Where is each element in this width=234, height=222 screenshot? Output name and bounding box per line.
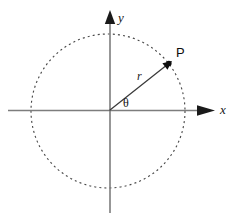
y-axis-arrow-icon [105, 10, 115, 24]
polar-coordinate-figure: y x r θ P [0, 0, 234, 222]
y-axis-label: y [118, 11, 124, 24]
point-p-label: P [176, 46, 185, 59]
x-axis-label: x [220, 103, 226, 116]
diagram-canvas [0, 0, 234, 222]
x-axis-arrow-icon [197, 105, 215, 116]
point-p-dot [166, 61, 171, 66]
angle-theta-label: θ [123, 97, 129, 109]
radius-label: r [137, 70, 142, 82]
